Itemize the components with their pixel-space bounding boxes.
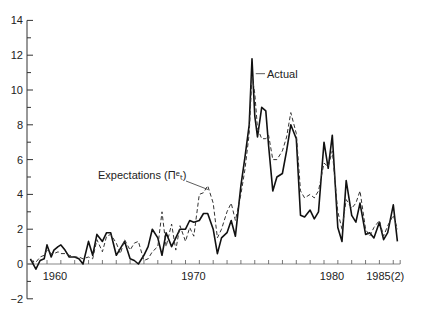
expectations-label: Expectations (Πᵉₜ) [98,169,186,181]
y-tick-label: 8 [17,119,23,131]
x-tick-label: 1960 [43,270,67,282]
y-tick-label: 6 [17,154,23,166]
inflation-chart: −2024681012141960197019801985(2) ActualE… [0,0,427,315]
y-tick-label: 10 [11,84,23,96]
y-tick-label: 4 [17,188,23,200]
y-tick-label: 0 [17,258,23,270]
y-tick-label: 12 [11,49,23,61]
y-tick-label: 14 [11,14,23,26]
x-tick-label: 1980 [320,270,344,282]
axes: −2024681012141960197019801985(2) [10,14,404,304]
x-tick-label: 1970 [181,270,205,282]
series-layer [30,59,397,270]
y-tick-label: −2 [10,293,23,305]
actual-label: Actual [267,68,298,80]
expectations-leader-line [186,181,208,190]
series-actual-line [30,59,397,270]
y-tick-label: 2 [17,223,23,235]
x-tick-label: 1985(2) [366,270,404,282]
